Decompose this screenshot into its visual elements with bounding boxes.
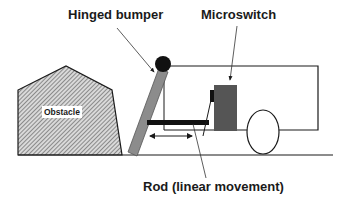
hinged-bumper-bar: [128, 68, 168, 156]
bumper-diagram: [0, 0, 350, 206]
rod: [147, 120, 209, 125]
rod-label: Rod (linear movement): [143, 179, 284, 194]
microswitch-pointer: [230, 26, 237, 80]
hinge-pivot: [155, 56, 171, 72]
hinged-bumper-label: Hinged bumper: [68, 7, 163, 22]
wheel: [247, 110, 279, 154]
microswitch-lever-arm: [203, 100, 211, 136]
microswitch-label: Microswitch: [201, 7, 276, 22]
hinged-bumper-pointer: [117, 28, 154, 72]
obstacle-label: Obstacle: [42, 106, 82, 118]
microswitch-body: [214, 85, 237, 131]
